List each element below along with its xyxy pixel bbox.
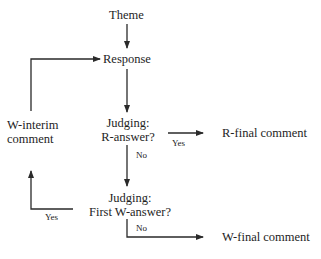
judging-r-line1: Judging: — [100, 116, 156, 130]
arrow-judging-w-yes — [31, 171, 73, 209]
edge-label-r-yes: Yes — [172, 138, 185, 148]
node-response: Response — [103, 52, 151, 66]
w-interim-line2: comment — [7, 132, 58, 146]
judging-r-line2: R-answer? — [100, 130, 156, 144]
node-judging-r-answer: Judging: R-answer? — [100, 116, 156, 144]
node-w-interim-comment: W-interim comment — [7, 118, 58, 146]
edge-label-w-no: No — [136, 223, 147, 233]
arrow-w-interim-to-response — [31, 59, 100, 111]
node-judging-first-w-answer: Judging: First W-answer? — [86, 191, 174, 219]
edge-label-w-yes: Yes — [45, 212, 58, 222]
node-r-final-comment: R-final comment — [222, 126, 307, 140]
judging-w-line1: Judging: — [86, 191, 174, 205]
edge-label-r-no: No — [136, 150, 147, 160]
node-theme: Theme — [109, 8, 144, 22]
judging-w-line2: First W-answer? — [86, 205, 174, 219]
w-interim-line1: W-interim — [7, 118, 58, 132]
flowchart: Theme Response Judging: R-answer? R-fina… — [0, 0, 321, 259]
node-w-final-comment: W-final comment — [222, 230, 310, 244]
